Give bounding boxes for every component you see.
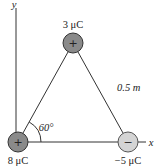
plus-sign-icon: + [13, 136, 22, 149]
side-length-label: 0.5 m [117, 82, 141, 93]
charge-origin: + 8 μC [8, 132, 29, 166]
charge-right: − −5 μC [115, 132, 141, 166]
charge-top: + 3 μC [63, 19, 84, 53]
charge-origin-label: 8 μC [8, 155, 29, 166]
y-axis-label: y [11, 0, 17, 10]
x-axis-label: x [148, 137, 154, 148]
charge-right-label: −5 μC [115, 155, 141, 166]
charge-top-label: 3 μC [63, 19, 84, 30]
charge-triangle-diagram: y x 60° 0.5 m + 3 μC + 8 μC − −5 μC [0, 0, 159, 168]
plus-sign-icon: + [68, 37, 77, 50]
angle-label: 60° [39, 122, 55, 133]
minus-sign-icon: − [123, 136, 132, 149]
